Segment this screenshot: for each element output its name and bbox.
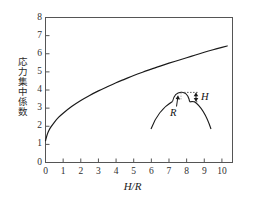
inset-R-leader-arrow	[176, 95, 181, 106]
x-axis-title: H/R	[0, 180, 265, 192]
inset-H-dimension-arrow	[194, 92, 199, 101]
data-curve	[46, 46, 228, 141]
inset-body-right-arc	[194, 102, 211, 130]
axis-tick-marks	[46, 18, 222, 163]
stress-concentration-factor-chart: 応力集中係数 012345678 012345678910	[0, 0, 265, 205]
plot-frame	[46, 18, 233, 163]
inset-label-R: R	[170, 107, 176, 118]
plot-canvas	[0, 0, 265, 205]
inset-label-H: H	[201, 91, 209, 102]
